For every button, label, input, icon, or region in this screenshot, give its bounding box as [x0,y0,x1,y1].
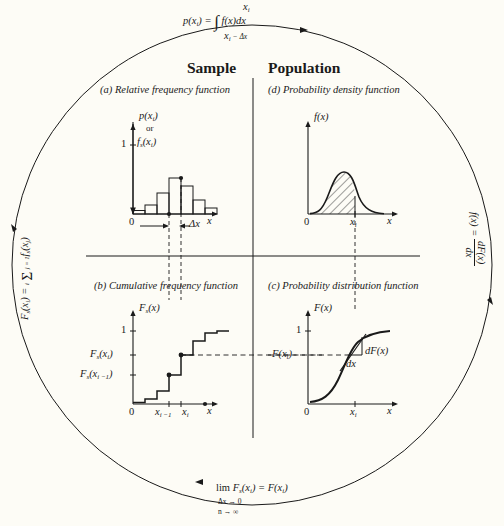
panel-c-tangent-rise: dF(x) [365,346,388,357]
sigma-sign: Σ [19,272,35,281]
right-relation: f(x) = dF(x) dx [464,212,486,266]
bottom-condition-n: n → ∞ [218,508,238,516]
caption-c: (c) Probability distribution function [268,281,418,292]
left-relation: Fs(xi) = i Σ j = 1 fs(xj) [20,237,32,320]
diagram-canvas: xi p(xi) = ∫ f(x)dx xi − Δx Sample Popul… [0,0,504,526]
panel-b-origin: 0 [129,407,134,418]
panel-c-xlabel: x [387,406,392,417]
panel-b-xlabel: x [207,406,212,417]
caption-b: (b) Cumulative frequency function [94,281,238,292]
panel-a-ytick-1: 1 [121,139,126,150]
top-relation: p(xi) = ∫ f(x)dx [183,16,246,28]
panel-b-ytick-1: 1 [121,325,126,336]
panel-a-ylabel-line3: fs(xi) [137,137,156,149]
panel-b-graph [130,310,322,407]
header-population: Population [268,60,340,76]
top-relation-upper-limit: xi [243,2,250,14]
caption-d: (d) Probability density function [268,85,400,96]
panel-d-origin: 0 [304,217,309,228]
panel-a-delta-label: Δx [189,219,200,230]
panel-a-ylabel-or: or [146,124,154,133]
panel-b-ylabel-fsxi: Fs(xi) [90,349,113,361]
panel-c-origin: 0 [304,407,309,418]
panel-a-xlabel: x [207,216,212,227]
header-sample: Sample [187,60,236,76]
panel-b-ylabel: Fs(x) [139,303,160,315]
panel-d-ylabel: f(x) [314,112,329,123]
panel-d-xlabel: x [387,216,392,227]
bottom-relation: lim Fs(xi) = F(xi) [216,483,288,495]
panel-d-xtick-xi: xi [350,217,357,229]
sigma-lower: j = 1 [23,256,30,269]
panel-b-ylabel-fsxim1: Fs(xi −1) [80,369,113,381]
sigma-upper: i [23,283,30,285]
outer-circle [12,25,492,505]
diagram-graphics [0,0,504,526]
panel-b-xtick-xim1: xi −1 [155,407,171,419]
caption-a: (a) Relative frequency function [100,85,230,96]
derivative-fraction: dF(x) dx [464,239,486,266]
panel-c-xtick-xi: xi [350,407,357,419]
panel-a-origin: 0 [129,217,134,228]
panel-b-xtick-xi: xi [182,407,189,419]
top-relation-lower-limit: xi − Δx [224,31,247,43]
panel-c-tangent-run: dx [346,359,356,370]
panel-a-ylabel-line1: p(xi) [139,111,158,123]
panel-c-ylabel-fxi: F(xi) [272,349,292,361]
limit-operator: lim [216,482,230,493]
panel-c-ylabel: F(x) [314,303,332,314]
panel-c-ytick-1: 1 [296,325,301,336]
integral-sign: ∫ [214,12,219,31]
bottom-condition-deltax: Δx → 0 [218,498,242,506]
